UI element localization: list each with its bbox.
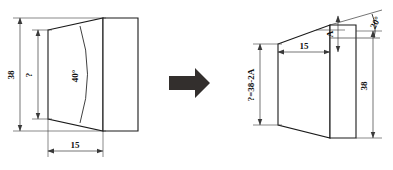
drawing-canvas: 40° 38 ? 15 [0,0,393,170]
transition-arrow-glyph [169,68,210,98]
left-view-rect-outline [103,18,138,131]
right-view-dim-a-label: A [325,30,335,37]
right-view-dim-38-label: 38 [359,81,369,91]
technical-drawing-figure: 40° 38 ? 15 [0,0,393,170]
right-view-angle-label: 20° [368,14,383,30]
right-view-rect-outline [330,25,356,138]
left-view: 40° 38 ? 15 [6,18,138,157]
left-view-angle-label: 40° [70,69,80,82]
right-view: 20° A ?=38-2A 15 38 [246,10,383,138]
left-view-dim-q-label: ? [24,73,34,78]
right-view-dim-q-label: ?=38-2A [246,68,256,101]
left-view-dim-15-label: 15 [71,140,81,150]
right-view-dim-15-label: 15 [300,41,310,51]
left-view-dim-38-label: 38 [6,70,16,80]
transition-arrow [169,68,210,98]
